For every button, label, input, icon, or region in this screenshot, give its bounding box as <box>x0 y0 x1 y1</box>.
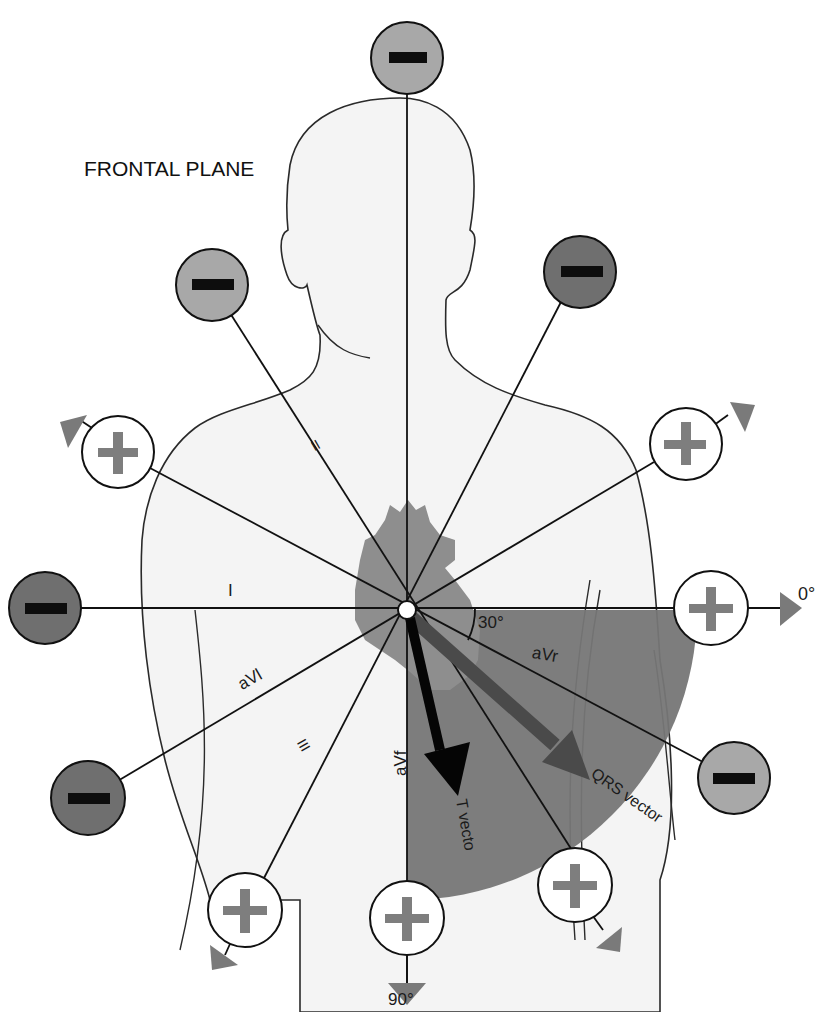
electrode-minus-upper-left <box>176 249 248 321</box>
minus-icon <box>25 603 67 614</box>
minus-icon <box>713 773 755 784</box>
electrode-plus-upper-left <box>82 416 154 488</box>
label-avf: aVf <box>391 750 410 776</box>
minus-icon <box>561 266 603 277</box>
diagram-title: FRONTAL PLANE <box>84 157 254 180</box>
electrode-minus-top <box>371 22 443 94</box>
electrode-plus-bottom-right <box>538 848 612 922</box>
electrode-plus-ninety-degree <box>370 881 444 955</box>
label-thirty-degrees: 30° <box>478 613 504 632</box>
electrode-plus-bottom-left <box>208 873 282 947</box>
ecg-frontal-plane-diagram: FRONTAL PLANE I II III aVl aVr aVf 30° 0… <box>0 0 828 1012</box>
electrode-minus-upper-right <box>544 236 616 308</box>
arrowhead-bottom-left <box>210 945 238 970</box>
arrowhead-upper-right <box>730 402 755 432</box>
origin-point <box>398 601 416 619</box>
electrode-plus-zero-degree <box>674 571 748 645</box>
electrode-minus-far-left <box>9 572 81 644</box>
label-ninety-degrees: 90° <box>388 990 414 1009</box>
label-lead-i: I <box>228 581 233 600</box>
minus-icon <box>68 793 110 804</box>
label-zero-degrees: 0° <box>798 584 815 604</box>
minus-icon <box>192 279 234 290</box>
electrode-plus-upper-right <box>650 408 722 480</box>
minus-icon <box>389 52 427 63</box>
electrode-minus-lower-left <box>51 761 125 835</box>
electrode-minus-lower-right <box>698 742 770 814</box>
